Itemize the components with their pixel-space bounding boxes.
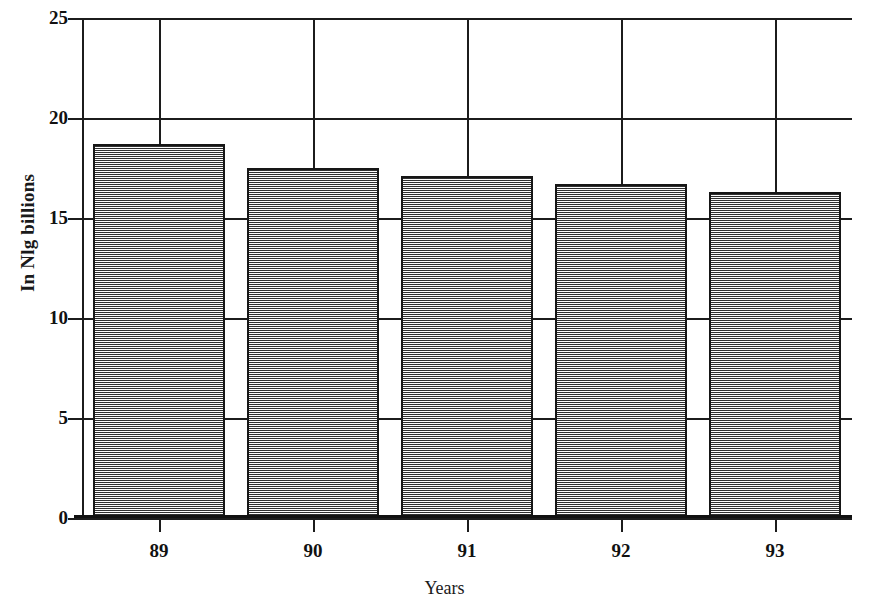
- y-axis-tick-mark: [68, 518, 82, 520]
- x-axis-tick-label: 92: [586, 540, 656, 562]
- x-axis-label: Years: [0, 578, 889, 599]
- y-axis-tick-mark: [68, 18, 82, 20]
- x-axis-tick-mark: [621, 518, 623, 532]
- bar-93: [709, 192, 841, 518]
- y-axis-tick-label-text: 25: [28, 8, 68, 27]
- y-axis-tick-label-text: 20: [28, 108, 68, 127]
- bar-91: [401, 176, 533, 518]
- y-axis-tick-label-text: 15: [28, 208, 68, 227]
- x-axis-tick-mark: [467, 518, 469, 532]
- y-axis-tick-label: 15: [22, 208, 68, 228]
- y-axis-tick-label-text: 5: [28, 408, 68, 427]
- plot-area: [82, 18, 852, 518]
- y-axis-tick-mark: [68, 318, 82, 320]
- x-axis-tick-label: 91: [432, 540, 502, 562]
- y-axis-tick-label: 0: [22, 508, 68, 528]
- x-axis-tick-mark: [313, 518, 315, 532]
- y-axis-tick-label: 5: [22, 408, 68, 428]
- y-axis-label: In Nlg billions: [17, 143, 39, 323]
- bar-90: [247, 168, 379, 518]
- bar-chart: In Nlg billions 0510152025 8990919293 Ye…: [0, 0, 889, 615]
- x-axis-tick-mark: [775, 518, 777, 532]
- x-axis-tick-label: 90: [278, 540, 348, 562]
- y-axis-tick-label: 10: [22, 308, 68, 328]
- y-axis-tick-label-text: 0: [28, 508, 68, 527]
- x-axis-line: [74, 515, 852, 518]
- bar-89: [93, 144, 225, 518]
- x-axis-tick-label: 89: [124, 540, 194, 562]
- y-axis-tick-mark: [68, 418, 82, 420]
- x-axis-tick-mark: [159, 518, 161, 532]
- y-axis-tick-mark: [68, 118, 82, 120]
- y-axis-tick-label-text: 10: [28, 308, 68, 327]
- y-axis-line: [82, 18, 84, 518]
- bar-92: [555, 184, 687, 518]
- x-axis-tick-label: 93: [740, 540, 810, 562]
- y-axis-tick-mark: [68, 218, 82, 220]
- y-axis-tick-label: 20: [22, 108, 68, 128]
- y-axis-tick-label: 25: [22, 8, 68, 28]
